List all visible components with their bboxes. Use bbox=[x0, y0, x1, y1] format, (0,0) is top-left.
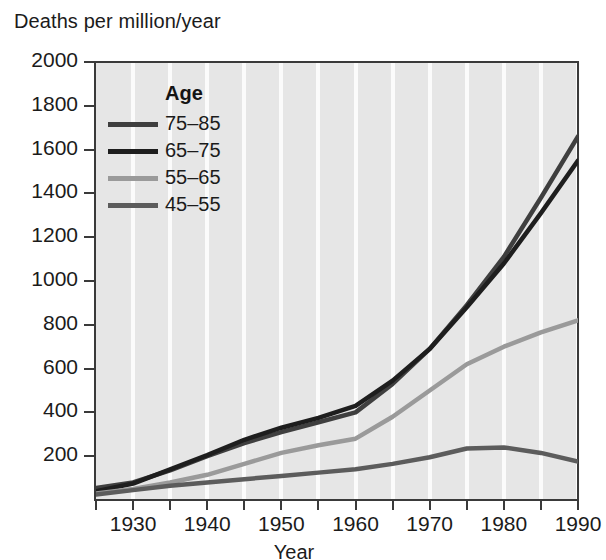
x-axis-title: Year bbox=[0, 541, 588, 560]
x-axis-tick-label: 1990 bbox=[538, 512, 606, 536]
y-axis-tick bbox=[84, 324, 95, 326]
y-axis-tick bbox=[84, 236, 95, 238]
y-axis-tick-label: 2000 bbox=[31, 48, 78, 72]
legend-label: 65–75 bbox=[165, 139, 221, 162]
x-axis-tick bbox=[503, 500, 505, 510]
legend-swatch bbox=[108, 149, 158, 154]
y-axis-tick bbox=[84, 411, 95, 413]
x-axis-tick-label: 1970 bbox=[390, 512, 470, 536]
x-axis-tick bbox=[206, 500, 208, 510]
x-axis-tick bbox=[95, 500, 97, 510]
x-axis-tick bbox=[243, 500, 245, 510]
y-axis-tick bbox=[84, 149, 95, 151]
y-axis-tick-label: 400 bbox=[43, 398, 78, 422]
y-axis-tick-label: 200 bbox=[43, 442, 78, 466]
x-axis-tick-label: 1980 bbox=[464, 512, 544, 536]
x-axis-tick bbox=[466, 500, 468, 510]
y-axis-tick-label: 1000 bbox=[31, 267, 78, 291]
x-axis-tick-label: 1950 bbox=[241, 512, 321, 536]
y-axis-caption: Deaths per million/year bbox=[14, 10, 221, 33]
x-axis-tick bbox=[132, 500, 134, 510]
legend-swatch bbox=[108, 203, 158, 208]
x-axis-tick bbox=[429, 500, 431, 510]
legend-title: Age bbox=[165, 82, 203, 105]
y-axis-tick-label: 800 bbox=[43, 311, 78, 335]
x-axis-tick bbox=[392, 500, 394, 510]
y-axis-tick bbox=[84, 192, 95, 194]
x-axis-tick-label: 1940 bbox=[167, 512, 247, 536]
x-axis-tick bbox=[280, 500, 282, 510]
series-line-75-85 bbox=[96, 136, 578, 487]
y-axis-tick-label: 1600 bbox=[31, 136, 78, 160]
y-axis-tick-label: 600 bbox=[43, 355, 78, 379]
y-axis-tick bbox=[84, 105, 95, 107]
legend-swatch bbox=[108, 176, 158, 181]
y-axis-tick-label: 1400 bbox=[31, 179, 78, 203]
x-axis-tick bbox=[317, 500, 319, 510]
y-axis-tick bbox=[84, 61, 95, 63]
y-axis-tick bbox=[84, 368, 95, 370]
legend-label: 55–65 bbox=[165, 166, 221, 189]
x-axis-tick bbox=[169, 500, 171, 510]
y-axis-tick bbox=[84, 455, 95, 457]
legend-label: 75–85 bbox=[165, 112, 221, 135]
x-axis-tick-label: 1960 bbox=[316, 512, 396, 536]
legend-label: 45–55 bbox=[165, 193, 221, 216]
x-axis-tick bbox=[355, 500, 357, 510]
series-line-55-65 bbox=[96, 320, 578, 493]
legend-swatch bbox=[108, 122, 158, 127]
x-axis-tick-label: 1930 bbox=[93, 512, 173, 536]
x-axis-tick bbox=[577, 500, 579, 510]
y-axis-tick-label: 1200 bbox=[31, 223, 78, 247]
y-axis-tick-label: 1800 bbox=[31, 92, 78, 116]
x-axis-tick bbox=[540, 500, 542, 510]
y-axis-tick bbox=[84, 280, 95, 282]
